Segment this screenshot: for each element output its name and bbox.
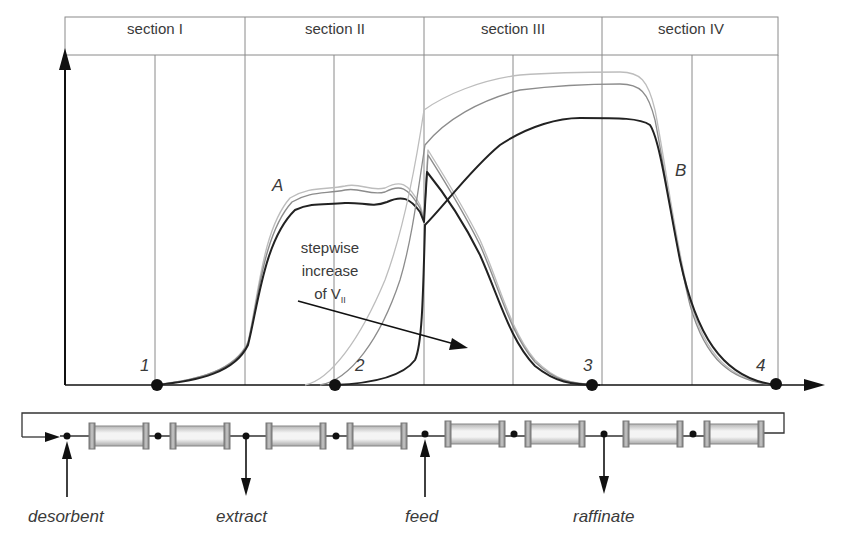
point-label-2: 2 (355, 356, 364, 376)
column-4 (347, 423, 407, 449)
y-axis-arrow-icon (59, 48, 71, 70)
annotation-line-3-text: of V (314, 285, 341, 302)
extract-arrow-head-icon (241, 478, 251, 496)
column-3 (266, 423, 326, 449)
annotation-line-1: stepwise (290, 236, 370, 259)
diagram-canvas (0, 0, 841, 544)
loop-arrow-icon (45, 432, 60, 442)
port-label-desorbent: desorbent (28, 507, 104, 527)
feed-arrow-head-icon (420, 439, 430, 457)
point-label-3: 3 (583, 356, 592, 376)
column-2 (170, 423, 230, 449)
point-label-1: 1 (140, 356, 149, 376)
point-4-dot (770, 378, 782, 390)
section-label-3: section III (428, 20, 598, 37)
port-label-extract: extract (216, 507, 267, 527)
annotation-line-3: of VII (290, 282, 370, 312)
point-2-dot (329, 379, 341, 391)
stepwise-arrow-head-icon (449, 338, 468, 350)
x-axis-arrow-icon (804, 379, 825, 391)
point-label-4: 4 (756, 356, 765, 376)
column-1 (89, 423, 149, 449)
annotation-subscript: II (341, 295, 346, 305)
curves-component-b (305, 72, 778, 385)
port-label-raffinate: raffinate (573, 507, 634, 527)
raffinate-arrow-head-icon (599, 476, 609, 494)
curve-a-light (155, 150, 600, 385)
point-3-dot (586, 379, 598, 391)
section-label-1: section I (70, 20, 240, 37)
stepwise-annotation: stepwise increase of VII (290, 236, 370, 312)
curve-a-dark (155, 172, 600, 385)
column-7 (623, 421, 683, 447)
smb-diagram: section I section II section III section… (0, 0, 841, 544)
section-label-4: section IV (606, 20, 776, 37)
column-6 (525, 421, 585, 447)
curves-component-a (155, 150, 600, 385)
curve-b-dark (334, 118, 778, 385)
curve-label-a: A (272, 176, 283, 196)
port-label-feed: feed (405, 507, 438, 527)
desorbent-arrow-head-icon (62, 441, 72, 459)
column-8 (704, 421, 764, 447)
curve-a-mid (155, 155, 600, 385)
annotation-line-2: increase (290, 259, 370, 282)
section-label-2: section II (250, 20, 420, 37)
curve-label-b: B (675, 161, 686, 181)
column-5 (445, 421, 505, 447)
point-1-dot (151, 379, 163, 391)
